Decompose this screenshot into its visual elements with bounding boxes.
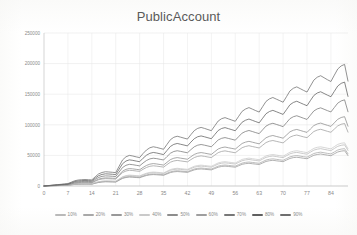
x-axis-tick-label: 21 [113,190,119,196]
legend-label: 10% [68,213,77,218]
legend-label: 20% [96,213,105,218]
series-line-80pct [44,82,348,186]
legend-item-30pct[interactable]: 30% [111,213,133,218]
x-axis-tick-label: 56 [232,190,238,196]
legend-item-20pct[interactable]: 20% [83,213,105,218]
legend-item-40pct[interactable]: 40% [139,213,161,218]
legend-label: 40% [152,213,161,218]
y-axis-tick-label: 0 [37,184,40,189]
legend-swatch-icon [196,214,207,216]
legend-label: 30% [124,213,133,218]
line-chart-svg: 0500001000001500002000002500000714212835… [0,0,357,235]
legend-label: 50% [180,213,189,218]
series-line-50pct [44,117,348,186]
legend-item-10pct[interactable]: 10% [55,213,77,218]
x-axis-tick-label: 14 [89,190,95,196]
legend-item-60pct[interactable]: 60% [196,213,218,218]
legend-item-50pct[interactable]: 50% [167,213,189,218]
x-axis-tick-label: 7 [66,190,69,196]
legend-swatch-icon [139,214,150,216]
x-axis-tick-label: 49 [208,190,214,196]
legend-label: 70% [237,213,246,218]
chart-container: PublicAccount 05000010000015000020000025… [0,0,357,235]
legend-item-70pct[interactable]: 70% [224,213,246,218]
y-axis-tick-label: 50000 [27,153,40,158]
legend-swatch-icon [83,214,94,216]
y-axis-tick-label: 200000 [25,61,41,66]
y-axis-tick-label: 150000 [25,92,41,97]
series-line-70pct [44,100,348,186]
legend-swatch-icon [55,214,66,216]
series-line-90pct [44,64,348,186]
x-axis-tick-label: 0 [43,190,46,196]
x-axis-tick-label: 35 [161,190,167,196]
y-axis-tick-label: 250000 [25,31,41,36]
y-axis-tick-label: 100000 [25,123,41,128]
legend-label: 90% [293,213,302,218]
legend-label: 60% [209,213,218,218]
legend-swatch-icon [111,214,122,216]
legend-label: 80% [265,213,274,218]
chart-legend: 10%20%30%40%50%60%70%80%90% [0,208,357,222]
legend-swatch-icon [252,214,263,216]
x-axis-tick-label: 70 [280,190,286,196]
legend-item-90pct[interactable]: 90% [280,213,302,218]
legend-swatch-icon [224,214,235,216]
x-axis-tick-label: 42 [185,190,191,196]
x-axis-tick-label: 77 [304,190,310,196]
x-axis-tick-label: 28 [137,190,143,196]
x-axis-tick-label: 84 [328,190,334,196]
plot-area: 0500001000001500002000002500000714212835… [0,0,357,235]
legend-swatch-icon [167,214,178,216]
legend-item-80pct[interactable]: 80% [252,213,274,218]
x-axis-tick-label: 63 [256,190,262,196]
series-line-60pct [44,124,348,186]
legend-swatch-icon [280,214,291,216]
